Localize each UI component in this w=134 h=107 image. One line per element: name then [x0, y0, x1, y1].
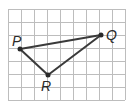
- edge-qr: [48, 35, 101, 75]
- vertex-label-q: Q: [106, 28, 117, 42]
- vertex-label-p: P: [12, 34, 21, 48]
- vertex-point-r: [46, 73, 51, 78]
- triangle-grid-diagram: [0, 0, 134, 107]
- vertex-point-q: [99, 33, 104, 38]
- vertex-label-r: R: [41, 79, 51, 93]
